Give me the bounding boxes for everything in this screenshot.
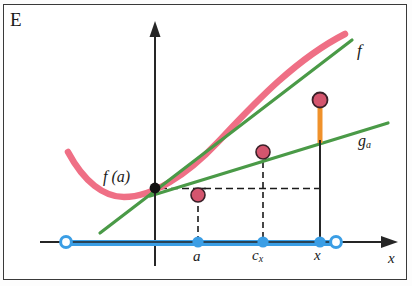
y-axis bbox=[150, 21, 161, 266]
curve-ga-label-subscript: a bbox=[366, 139, 371, 150]
line-g-a bbox=[150, 123, 388, 196]
interval-right-open-endpoint bbox=[331, 237, 342, 248]
tick-dot-a bbox=[192, 236, 203, 247]
tick-label-x: x bbox=[314, 247, 321, 264]
tick-label-cx: cx bbox=[252, 247, 263, 264]
point-f-of-a-on-axis bbox=[150, 183, 161, 194]
tick-label-a: a bbox=[193, 248, 201, 265]
y-axis-arrowhead bbox=[150, 21, 161, 37]
figure-panel: E f ga f (a) a cx x x bbox=[0, 0, 412, 286]
point-on-f-at-a bbox=[191, 188, 205, 202]
curve-ga-label-base: g bbox=[358, 132, 366, 149]
diagram-canvas bbox=[0, 0, 412, 286]
curve-points bbox=[150, 93, 328, 203]
tick-dot-x bbox=[314, 236, 325, 247]
tick-label-cx-subscript: x bbox=[259, 253, 263, 264]
interval-left-open-endpoint bbox=[61, 237, 72, 248]
tick-label-cx-base: c bbox=[252, 247, 259, 263]
x-axis-label: x bbox=[388, 250, 395, 267]
panel-label: E bbox=[10, 9, 22, 31]
line-tangent-at-a bbox=[100, 40, 352, 233]
dashed-guides bbox=[160, 152, 322, 240]
x-axis-arrowhead bbox=[381, 236, 398, 248]
curve-ga-label: ga bbox=[358, 132, 371, 150]
point-on-f-at-cx bbox=[256, 145, 270, 159]
f-of-a-label: f (a) bbox=[103, 168, 130, 186]
tick-dot-cx bbox=[257, 236, 268, 247]
curve-f-label: f bbox=[357, 41, 362, 61]
point-on-f-at-x bbox=[313, 93, 328, 108]
